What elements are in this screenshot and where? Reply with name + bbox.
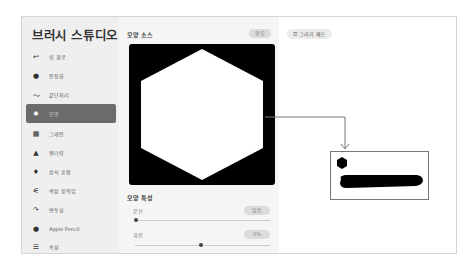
sidebar: 브러시 스튜디오 ↩ 획 경로 ● 안정화 〜 끝단처리 ✹ 모양 ▦ 그레인 … <box>22 17 119 253</box>
drawing-pad-label: 그리기 패드 <box>299 31 326 37</box>
sidebar-item-color-dynamics[interactable]: ⚟ 색상 움직임 <box>26 182 116 199</box>
dynamics-icon: ↷ <box>31 206 41 214</box>
sidebar-item-stroke-path[interactable]: ↩ 획 경로 <box>26 48 116 65</box>
sidebar-item-properties[interactable]: ☰ 속성 <box>26 238 116 255</box>
sidebar-item-label: 변동성 <box>49 206 64 213</box>
sidebar-item-label: 획 경로 <box>49 53 66 60</box>
apple-pencil-icon: ● <box>31 225 41 233</box>
scatter-slider[interactable] <box>135 220 270 221</box>
drawing-pad[interactable]: ☑ 그리기 패드 <box>279 17 456 253</box>
shape-icon: ✹ <box>31 110 41 118</box>
scatter-label: 분산 <box>133 207 143 214</box>
rotation-slider-knob[interactable] <box>199 243 203 247</box>
sidebar-item-rendering[interactable]: ▲ 렌더링 <box>26 144 116 161</box>
sidebar-item-label: 끝단처리 <box>49 91 69 98</box>
stroke-result-box <box>330 151 429 200</box>
sidebar-item-shape[interactable]: ✹ 모양 <box>26 104 116 123</box>
brush-studio-window: 브러시 스튜디오 ↩ 획 경로 ● 안정화 〜 끝단처리 ✹ 모양 ▦ 그레인 … <box>21 16 457 254</box>
scatter-value[interactable]: 없음 <box>244 206 270 215</box>
sidebar-item-apple-pencil[interactable]: ● Apple Pencil <box>26 220 116 237</box>
sidebar-item-label: 모양 <box>49 110 59 117</box>
sidebar-item-dynamics[interactable]: ↷ 변동성 <box>26 201 116 218</box>
sidebar-item-label: 색상 움직임 <box>49 187 76 194</box>
sidebar-item-grain[interactable]: ▦ 그레인 <box>26 125 116 142</box>
wet-mix-icon: ♦ <box>31 168 41 176</box>
brush-stroke-sample-icon <box>331 152 428 199</box>
sidebar-item-taper[interactable]: 〜 끝단처리 <box>26 86 116 103</box>
hexagon-shape-icon <box>129 44 275 185</box>
settings-panel: 모양 소스 편집 모양 특성 분산 없음 회전 0% <box>119 17 279 253</box>
sidebar-item-label: 안정화 <box>49 72 64 79</box>
rotation-value[interactable]: 0% <box>244 230 270 239</box>
sidebar-item-label: 습식 혼합 <box>49 168 71 175</box>
shape-preview[interactable] <box>129 44 275 185</box>
shape-source-title: 모양 소스 <box>127 30 153 39</box>
sidebar-item-label: 속성 <box>49 243 59 250</box>
properties-icon: ☰ <box>31 243 41 251</box>
edit-square-icon: ☑ <box>293 31 297 37</box>
stabilization-icon: ● <box>31 72 41 80</box>
color-dynamics-icon: ⚟ <box>31 187 41 195</box>
rendering-icon: ▲ <box>31 149 41 157</box>
drawing-pad-button[interactable]: ☑ 그리기 패드 <box>287 29 332 39</box>
sidebar-item-label: Apple Pencil <box>49 226 79 232</box>
sidebar-item-stabilization[interactable]: ● 안정화 <box>26 67 116 84</box>
sidebar-item-wet-mix[interactable]: ♦ 습식 혼합 <box>26 163 116 180</box>
shape-properties-title: 모양 특성 <box>127 193 153 202</box>
taper-icon: 〜 <box>31 90 41 100</box>
sidebar-item-label: 렌더링 <box>49 149 64 156</box>
sidebar-item-label: 그레인 <box>49 130 64 137</box>
edit-button[interactable]: 편집 <box>249 29 271 38</box>
grain-icon: ▦ <box>31 130 41 138</box>
sidebar-title: 브러시 스튜디오 <box>32 25 118 44</box>
rotation-label: 회전 <box>133 231 143 238</box>
stroke-path-icon: ↩ <box>31 53 41 61</box>
scatter-slider-knob[interactable] <box>134 218 138 222</box>
